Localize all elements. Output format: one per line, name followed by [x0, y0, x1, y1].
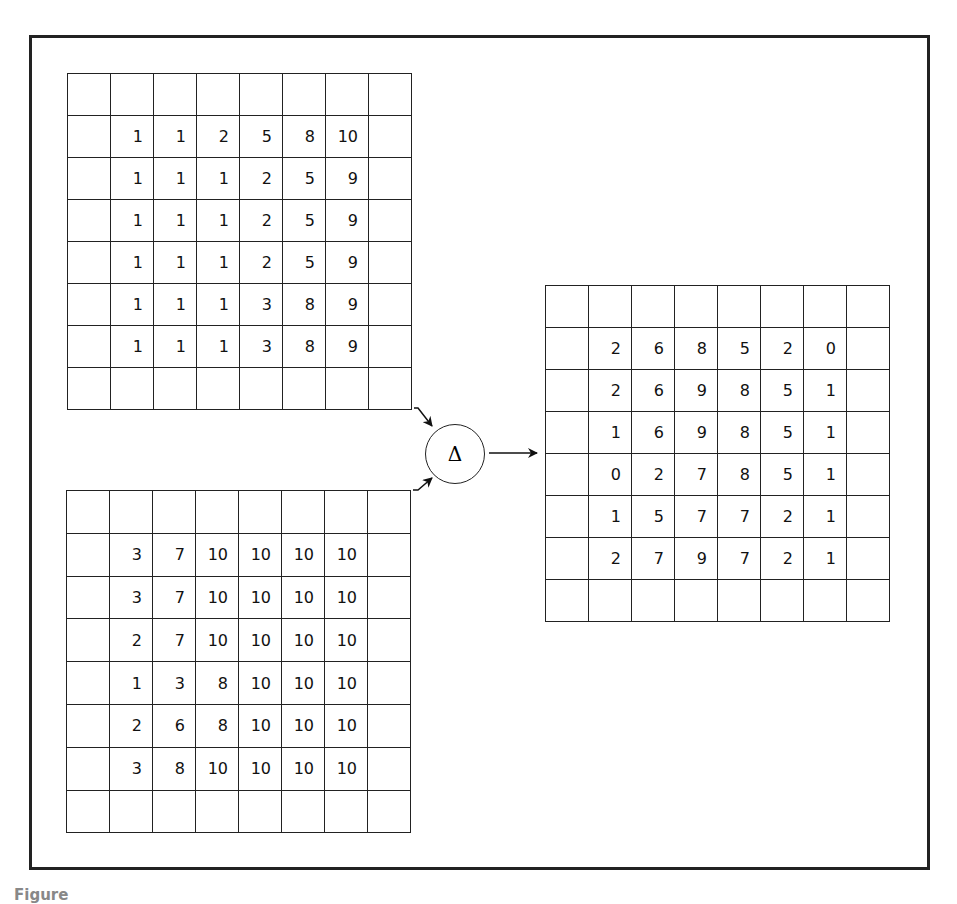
difference-operator-icon: Δ	[425, 424, 485, 484]
operator-symbol: Δ	[448, 442, 462, 466]
arrow-from-grid-b-icon	[413, 478, 432, 490]
figure-caption: Figure	[14, 886, 68, 904]
arrow-from-grid-a-icon	[414, 408, 432, 426]
